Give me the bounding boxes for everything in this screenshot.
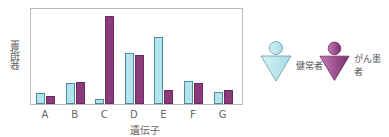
bar-B-cancer — [76, 82, 85, 104]
plot-area — [30, 8, 243, 105]
x-tick-E: E — [153, 109, 173, 120]
bar-G-cancer — [224, 90, 233, 104]
person-healthy-icon — [258, 41, 294, 83]
bar-E-healthy — [154, 37, 163, 104]
person-cancer-icon — [317, 41, 352, 83]
y-axis-label: 発現量 — [10, 40, 24, 70]
bar-G-healthy — [214, 92, 223, 104]
legend-item-cancer: がん患者 — [317, 41, 389, 83]
bar-A-healthy — [36, 93, 45, 104]
bar-C-cancer — [105, 16, 114, 104]
bar-F-healthy — [184, 81, 193, 104]
x-tick-F: F — [183, 109, 203, 120]
bar-F-cancer — [194, 83, 203, 104]
x-tick-C: C — [94, 109, 114, 120]
x-tick-D: D — [124, 109, 144, 120]
legend-label-cancer: がん患者 — [354, 52, 389, 78]
bar-D-healthy — [125, 53, 134, 104]
bar-C-healthy — [95, 99, 104, 104]
x-axis-label: 遺伝子 — [120, 122, 170, 137]
x-tick-B: B — [65, 109, 85, 120]
legend-item-healthy: 健常者 — [258, 41, 323, 83]
bar-B-healthy — [66, 83, 75, 104]
bar-A-cancer — [46, 96, 55, 104]
x-tick-G: G — [213, 109, 233, 120]
x-tick-A: A — [35, 109, 55, 120]
bar-D-cancer — [135, 55, 144, 104]
gene-expression-chart: 発現量 ABCDEFG 遺伝子 健常者 — [0, 0, 389, 137]
bar-E-cancer — [164, 90, 173, 104]
